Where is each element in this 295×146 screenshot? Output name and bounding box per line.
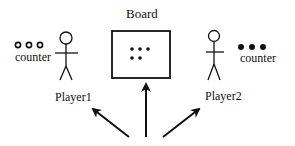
player2-label: Player2 bbox=[205, 89, 242, 104]
player2-counters-icon bbox=[238, 44, 266, 50]
arrow-to-player2-icon bbox=[163, 109, 199, 137]
player2-figure-icon bbox=[206, 31, 224, 81]
board-icon bbox=[112, 31, 170, 78]
arrow-to-player1-icon bbox=[93, 109, 129, 137]
player1-counters-icon bbox=[15, 42, 42, 47]
board-label: Board bbox=[126, 6, 158, 22]
player1-label: Player1 bbox=[55, 90, 92, 105]
player2-counter-label: counter bbox=[240, 51, 276, 66]
player1-figure-icon bbox=[55, 32, 78, 80]
player1-counter-label: counter bbox=[15, 50, 51, 65]
game-diagram: Board counter Player1 counter Player2 bbox=[0, 0, 295, 146]
